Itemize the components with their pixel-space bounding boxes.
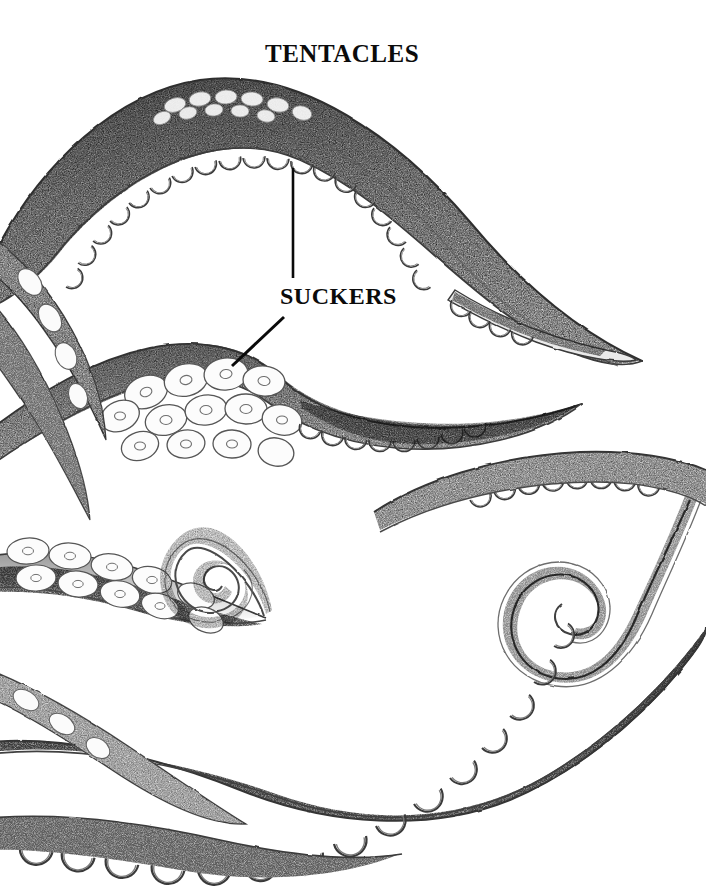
tentacle-arm-left-edge [0,236,106,520]
tentacle-coil-right [374,452,706,687]
suckers-leader-line [232,317,284,366]
leader-lines [232,168,293,366]
tentacle-arm-top [0,78,642,366]
tentacles-drawing [0,0,706,896]
page-title: TENTACLES [265,40,419,68]
annotation-label-suckers: SUCKERS [280,283,397,310]
illustration-canvas: TENTACLES SUCKERS [0,0,706,896]
